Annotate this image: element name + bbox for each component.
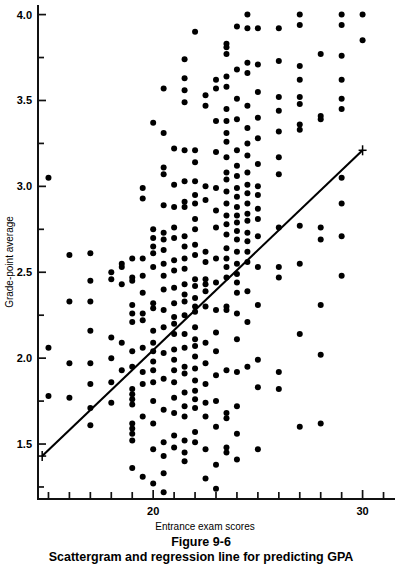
data-point (150, 300, 156, 306)
data-point (297, 122, 303, 128)
data-point (203, 92, 209, 98)
data-point (255, 302, 261, 308)
data-point (255, 264, 261, 270)
x-tick-label: 20 (147, 505, 159, 517)
data-point (129, 391, 135, 397)
data-point (192, 377, 198, 383)
x-axis-tick-labels: 2030 (147, 505, 369, 517)
data-point (244, 182, 250, 188)
y-axis-title: Grade-point average (4, 216, 15, 308)
data-point (182, 266, 188, 272)
data-point (203, 288, 209, 294)
data-point (150, 446, 156, 452)
data-point (234, 147, 240, 153)
data-point (244, 125, 250, 131)
data-point (161, 85, 167, 91)
data-point (234, 185, 240, 191)
data-point (223, 307, 229, 313)
data-point (223, 221, 229, 227)
y-tick-label: 3.5 (17, 94, 32, 106)
data-point (129, 438, 135, 444)
data-point (161, 307, 167, 313)
figure-title-caption: Scattergram and regression line for pred… (49, 550, 354, 564)
data-point (223, 139, 229, 145)
data-point (140, 474, 146, 480)
data-point (182, 458, 188, 464)
data-point (192, 365, 198, 371)
data-point (192, 353, 198, 359)
data-point (255, 233, 261, 239)
data-point (213, 398, 219, 404)
data-point (45, 393, 51, 399)
data-point (234, 67, 240, 73)
data-point (244, 230, 250, 236)
data-point (182, 403, 188, 409)
data-point (161, 273, 167, 279)
data-point (339, 106, 345, 112)
data-point (129, 420, 135, 426)
data-point (223, 51, 229, 57)
data-point (87, 360, 93, 366)
data-point (87, 278, 93, 284)
data-point (140, 414, 146, 420)
data-point (150, 398, 156, 404)
data-point (213, 118, 219, 124)
data-point (339, 96, 345, 102)
x-axis-title: Entrance exam scores (155, 521, 255, 532)
data-point (213, 462, 219, 468)
data-point (234, 219, 240, 225)
data-point (66, 395, 72, 401)
data-point (192, 276, 198, 282)
data-point (223, 201, 229, 207)
data-point (297, 223, 303, 229)
data-point (276, 171, 282, 177)
data-point (234, 96, 240, 102)
data-point (255, 446, 261, 452)
data-point (161, 453, 167, 459)
data-point (161, 324, 167, 330)
scatter-points (45, 12, 365, 496)
data-point (182, 199, 188, 205)
data-point (244, 218, 250, 224)
data-point (213, 85, 219, 91)
data-point (150, 120, 156, 126)
data-point (192, 192, 198, 198)
data-point (276, 128, 282, 134)
data-point (276, 264, 282, 270)
data-point (150, 250, 156, 256)
data-point (161, 261, 167, 267)
data-point (234, 194, 240, 200)
data-point (171, 432, 177, 438)
data-point (161, 376, 167, 382)
data-point (223, 245, 229, 251)
data-point (213, 424, 219, 430)
data-point (223, 154, 229, 160)
data-point (213, 225, 219, 231)
data-point (45, 175, 51, 181)
data-point (192, 242, 198, 248)
data-point (150, 379, 156, 385)
data-point (140, 256, 146, 262)
data-point (161, 237, 167, 243)
y-axis-tick-labels: 1.52.02.53.03.54.0 (17, 9, 32, 450)
data-point (171, 204, 177, 210)
data-point (192, 439, 198, 445)
data-point (119, 340, 125, 346)
data-point (140, 273, 146, 279)
data-point (182, 414, 188, 420)
data-point (213, 329, 219, 335)
data-point (182, 371, 188, 377)
data-point (171, 235, 177, 241)
data-point (339, 12, 345, 18)
data-point (244, 103, 250, 109)
data-point (234, 228, 240, 234)
data-point (318, 51, 324, 57)
data-point (192, 324, 198, 330)
data-point (192, 283, 198, 289)
data-point (192, 429, 198, 435)
data-point (171, 268, 177, 274)
data-point (203, 475, 209, 481)
data-point (244, 319, 250, 325)
data-point (297, 12, 303, 18)
data-point (161, 130, 167, 136)
